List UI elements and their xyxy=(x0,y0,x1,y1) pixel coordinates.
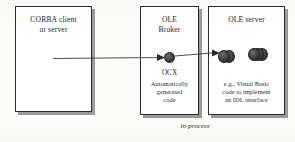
in-process-caption: in-process xyxy=(150,122,240,130)
box-broker-note-line1: Automatically xyxy=(141,80,198,88)
box-broker-title-line1: OLE xyxy=(141,15,198,24)
box-oleserver-note-line1: e.g., Visual Basic xyxy=(209,80,284,88)
box-broker-note-line2: generated xyxy=(141,88,198,96)
box-corba-client-or-server: CORBA client or server xyxy=(15,6,92,112)
box-oleserver-note-line3: an IDL interface xyxy=(209,96,284,104)
box-corba-content: CORBA client or server xyxy=(16,7,91,111)
box-broker-title-line2: Broker xyxy=(141,25,198,34)
box-corba-title-line1: CORBA client xyxy=(16,15,91,24)
ocx-component-ball-icon xyxy=(164,52,175,63)
ole-server-component-ball-icon-a1 xyxy=(218,50,230,63)
box-oleserver-note: e.g., Visual Basic code to implement an … xyxy=(209,80,284,105)
ocx-component-label: OCX xyxy=(141,69,198,78)
box-oleserver-note-line2: code to implement xyxy=(209,88,284,96)
diagram-canvas: CORBA client or server OLE Broker OCX Au… xyxy=(0,0,295,142)
box-corba-title-line2: or server xyxy=(16,25,91,34)
box-broker-note: Automatically generated code xyxy=(141,80,198,105)
box-broker-note-line3: code xyxy=(141,96,198,104)
ole-server-component-ball-icon-b1 xyxy=(248,48,260,61)
box-oleserver-title-line1: OLE server xyxy=(209,15,284,24)
